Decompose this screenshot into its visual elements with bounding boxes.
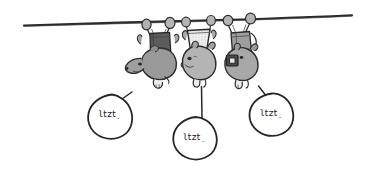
speech-bubble-right[interactable]: ˙ʇzʇʅ bbox=[249, 93, 293, 135]
speech-bubble-left-text: ˙ʇzʇʅ bbox=[98, 110, 120, 120]
sketch-canvas: ˙ʇzʇʅ ˙ʇzʇʅ ˙ʇzʇʅ bbox=[0, 0, 371, 189]
possum-right-camera-icon bbox=[227, 55, 239, 66]
speech-bubble-middle-text: ˙ʇzʇʅ bbox=[183, 133, 205, 143]
possum-right-eye bbox=[240, 56, 244, 59]
speech-bubble-middle[interactable]: ˙ʇzʇʅ bbox=[173, 117, 217, 159]
canvas-background bbox=[0, 0, 371, 189]
speech-bubble-right-text: ˙ʇzʇʅ bbox=[260, 109, 282, 119]
possum-middle-eye bbox=[187, 57, 191, 60]
possum-left-eye bbox=[138, 63, 142, 66]
sketch-illustration: ˙ʇzʇʅ ˙ʇzʇʅ ˙ʇzʇʅ bbox=[0, 0, 371, 189]
speech-tail-middle bbox=[202, 87, 203, 119]
